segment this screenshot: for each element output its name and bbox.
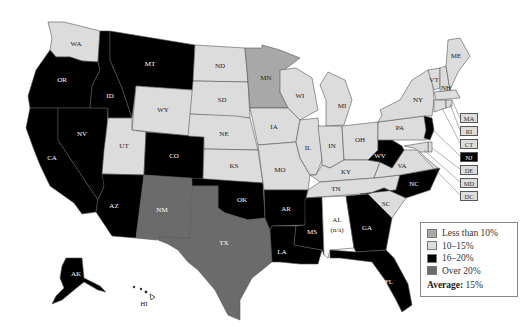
legend-swatch [427,241,437,250]
average-label: Average: [427,280,463,290]
state-ME [446,38,470,90]
state-label-PA: PA [396,124,404,132]
state-label-OK: OK [237,196,247,204]
legend-swatch [427,254,437,263]
legend-swatch [427,229,437,238]
state-label-KS: KS [230,162,239,170]
state-MI [320,72,352,126]
state-label-NH: NH [441,84,451,92]
state-label-AL: AL [332,216,341,224]
legend-item-less-than-10: Less than 10% [427,227,511,240]
state-label-MS: MS [307,228,317,236]
state-label-MT: MT [145,60,156,68]
state-label-CO: CO [169,152,179,160]
state-label-CA: CA [47,154,57,162]
state-AK [52,258,106,304]
legend-item-over-20: Over 20% [427,265,511,278]
state-HI [133,286,155,300]
state-NY [378,70,434,122]
legend-average: Average: 15% [427,280,511,290]
callout-MD: MD [460,178,478,188]
state-label-OH: OH [355,136,365,144]
state-label-SC: SC [382,200,391,208]
state-label-GA: GA [362,224,372,232]
state-label-ME: ME [451,52,462,60]
state-label-WI: WI [296,92,306,100]
state-FL [330,250,412,312]
state-label-MO: MO [274,166,285,174]
legend-label: Over 20% [442,266,481,276]
state-label-ND: ND [215,62,225,70]
state-label-VA: VA [397,162,406,170]
state-label-MN: MN [260,74,271,82]
state-CT [434,100,446,112]
callout-NJ: NJ [460,152,478,162]
legend-item-16-20: 16–20% [427,252,511,265]
callout-DC: DC [460,191,478,201]
state-label-SD: SD [218,96,227,104]
legend-label: 10–15% [442,241,474,251]
state-sublabel-AL: (n/a) [330,226,344,234]
state-label-TN: TN [331,185,340,193]
state-label-WY: WY [157,106,169,114]
callout-MA: MA [460,113,478,123]
state-label-IN: IN [328,142,335,150]
state-label-IA: IA [270,123,277,131]
callout-CT: CT [460,139,478,149]
state-label-WA: WA [71,40,82,48]
state-label-FL: FL [385,278,393,286]
state-label-OR: OR [57,76,67,84]
callout-RI: RI [460,126,478,136]
callout-DE: DE [460,165,478,175]
state-DE [428,142,432,152]
state-label-NY: NY [413,96,423,104]
state-label-UT: UT [119,142,129,150]
state-label-NE: NE [219,130,228,138]
legend-label: Less than 10% [442,228,498,238]
state-label-AR: AR [281,205,291,213]
state-label-NV: NV [77,130,87,138]
state-label-LA: LA [277,248,286,256]
state-label-VT: VT [429,76,439,84]
state-label-WV: WV [374,152,386,160]
map-legend: Less than 10% 10–15% 16–20% Over 20% Ave… [420,222,518,297]
state-label-AK: AK [71,270,81,278]
state-label-AZ: AZ [109,202,118,210]
state-NJ [424,116,434,140]
state-label-ID: ID [106,92,113,100]
average-value: 15% [466,280,483,290]
legend-swatch [427,266,437,275]
state-label-MI: MI [338,102,347,110]
state-label-NC: NC [409,180,419,188]
state-label-HI: HI [140,300,148,308]
legend-item-10-15: 10–15% [427,240,511,253]
legend-label: 16–20% [442,253,474,263]
state-label-NM: NM [156,206,168,214]
state-label-TX: TX [219,239,228,247]
state-label-IL: IL [305,144,312,152]
state-label-KY: KY [341,168,351,176]
